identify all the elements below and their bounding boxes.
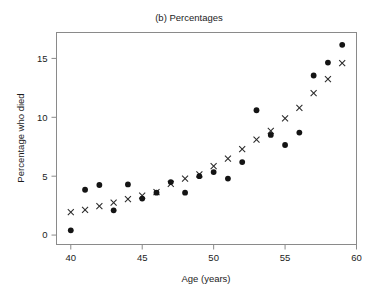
data-point-circle (254, 107, 260, 113)
data-point-cross (311, 90, 317, 96)
x-axis-ticks: 4045505560 (65, 245, 361, 263)
x-tick-label: 50 (208, 252, 219, 263)
data-point-circle (68, 227, 74, 233)
data-point-circle (239, 159, 245, 165)
data-point-circle (211, 169, 217, 175)
y-tick-label: 10 (37, 112, 48, 123)
data-point-circle (225, 176, 231, 182)
data-point-circle (168, 179, 174, 185)
x-tick-label: 45 (137, 252, 148, 263)
x-tick-label: 55 (280, 252, 291, 263)
data-point-cross (182, 176, 188, 182)
data-point-cross (82, 207, 88, 213)
data-point-circle (311, 73, 317, 79)
figure-panel: (b) Percentages 051015 4045505560 Age (y… (0, 0, 378, 293)
y-axis-label: Percentage who died (15, 93, 26, 182)
data-point-cross (254, 137, 260, 143)
x-tick-label: 40 (65, 252, 76, 263)
data-point-cross (96, 203, 102, 209)
data-point-circle (96, 182, 102, 188)
data-point-circle (196, 173, 202, 179)
data-point-circle (282, 142, 288, 148)
data-point-circle (125, 182, 131, 188)
data-point-circle (268, 132, 274, 138)
chart-title-group: (b) Percentages (155, 12, 223, 23)
data-point-circle (296, 130, 302, 136)
data-point-circle (139, 196, 145, 202)
data-point-cross (325, 76, 331, 82)
y-axis-label-group: Percentage who died (15, 93, 26, 182)
data-point-cross (282, 115, 288, 121)
data-point-cross (211, 163, 217, 169)
series-observed-markers (68, 42, 345, 233)
y-axis-ticks: 051015 (37, 53, 57, 241)
data-point-cross (111, 200, 117, 206)
x-tick-label: 60 (351, 252, 362, 263)
data-point-circle (325, 60, 331, 66)
y-tick-label: 5 (42, 171, 47, 182)
data-point-circle (82, 187, 88, 193)
data-point-cross (239, 146, 245, 152)
series-expected-markers (68, 60, 345, 215)
data-point-cross (296, 105, 302, 111)
chart-title: (b) Percentages (155, 12, 223, 23)
x-axis-label-group: Age (years) (181, 273, 230, 284)
data-point-cross (225, 156, 231, 162)
data-point-circle (111, 207, 117, 213)
axes-frame (57, 33, 357, 245)
data-point-circle (182, 190, 188, 196)
y-tick-label: 0 (42, 229, 47, 240)
scatter-chart: (b) Percentages 051015 4045505560 Age (y… (0, 0, 378, 293)
data-point-circle (339, 42, 345, 48)
data-point-cross (125, 196, 131, 202)
data-point-cross (68, 209, 74, 215)
y-tick-label: 15 (37, 53, 48, 64)
plot-frame (57, 33, 357, 245)
data-point-circle (154, 190, 160, 196)
data-point-cross (339, 60, 345, 66)
x-axis-label: Age (years) (181, 273, 230, 284)
